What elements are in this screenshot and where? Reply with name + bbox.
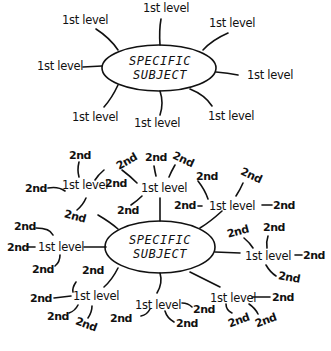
center-line-1: SPECIFIC — [110, 54, 210, 68]
first-level-node: 1st level — [247, 69, 293, 81]
second-level-node: 2nd — [32, 264, 54, 276]
second-level-node: 2nd — [14, 221, 36, 233]
center-line-1: SPECIFIC — [110, 233, 210, 247]
second-level-node: 2nd — [174, 200, 196, 212]
second-level-node: 2nd — [30, 293, 52, 305]
first-level-node: 1st level — [141, 182, 187, 194]
first-level-node: 1st level — [135, 299, 181, 311]
center-subject: SPECIFIC SUBJECT — [110, 54, 210, 82]
first-level-node: 1st level — [143, 2, 189, 14]
second-level-node: 2nd — [69, 150, 91, 162]
second-level-node: 2nd — [272, 292, 294, 304]
first-level-node: 1st level — [62, 14, 108, 26]
first-level-node: 1st level — [38, 241, 84, 253]
first-level-node: 1st level — [209, 17, 255, 29]
first-level-node: 1st level — [210, 292, 256, 304]
first-level-node: 1st level — [37, 60, 83, 72]
second-level-node: 2nd — [196, 171, 218, 183]
first-level-node: 1st level — [62, 179, 108, 191]
second-level-node: 2nd — [82, 265, 104, 277]
second-level-node: 2nd — [273, 200, 295, 212]
second-level-node: 2nd — [176, 318, 198, 330]
second-level-node: 2nd — [263, 222, 285, 234]
first-level-node: 1st level — [245, 250, 291, 262]
second-level-node: 2nd — [7, 242, 29, 254]
second-level-node: 2nd — [117, 205, 139, 217]
second-level-node: 2nd — [25, 183, 47, 195]
center-line-2: SUBJECT — [110, 68, 210, 82]
center-subject: SPECIFIC SUBJECT — [110, 233, 210, 261]
first-level-node: 1st level — [208, 110, 254, 122]
first-level-node: 1st level — [134, 117, 180, 129]
second-level-node: 2nd — [145, 152, 167, 164]
second-level-node: 2nd — [110, 313, 132, 325]
first-level-node: 1st level — [209, 200, 255, 212]
first-level-node: 1st level — [72, 111, 118, 123]
second-level-node: 2nd — [303, 250, 325, 262]
second-level-node: 2nd — [105, 178, 127, 190]
second-level-node: 2nd — [193, 304, 215, 316]
center-line-2: SUBJECT — [110, 247, 210, 261]
first-level-node: 1st level — [73, 290, 119, 302]
second-level-node: 2nd — [47, 311, 69, 323]
